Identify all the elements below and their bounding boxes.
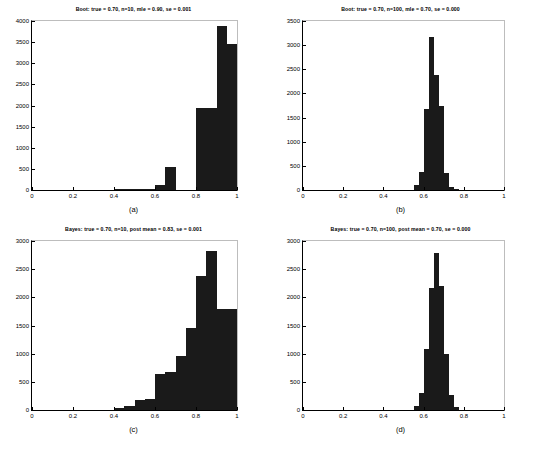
x-axis-tick-label: 0.4 (110, 193, 118, 199)
x-axis-tick-label: 0 (301, 413, 304, 419)
histogram-bar (454, 189, 459, 190)
x-axis-tick-label: 1 (502, 193, 505, 199)
y-axis-tick-mark (303, 21, 306, 22)
histogram-bar (186, 328, 196, 410)
y-axis-tick-label: 500 (290, 163, 300, 169)
y-axis-tick-label: 1000 (287, 139, 300, 145)
x-axis-tick-mark (32, 187, 33, 190)
x-axis-tick-mark (303, 407, 304, 410)
panel-a-caption: (a) (0, 205, 267, 214)
x-axis-tick-mark (504, 407, 505, 410)
histogram-bar (227, 44, 237, 190)
panel-b-bars (303, 21, 504, 190)
y-axis-tick-mark (32, 190, 35, 191)
panel-c-title: Bayes: true = 0.70, n=10, post mean = 0.… (0, 226, 267, 232)
x-axis-tick-mark (196, 187, 197, 190)
histogram-bar (114, 408, 124, 410)
y-axis-tick-label: 1500 (287, 115, 300, 121)
y-axis-tick-label: 2500 (287, 266, 300, 272)
x-axis-tick-label: 0.6 (419, 193, 427, 199)
y-axis-tick-mark (32, 382, 35, 383)
panel-a-plot-area: 0500100015002000250030003500400000.20.40… (31, 20, 238, 191)
y-axis-tick-label: 2000 (16, 103, 29, 109)
y-axis-tick-label: 3000 (287, 238, 300, 244)
histogram-bar (124, 189, 134, 190)
panel-d-bars (303, 241, 504, 410)
y-axis-tick-mark (32, 297, 35, 298)
y-axis-tick-label: 0 (26, 407, 29, 413)
y-axis-tick-label: 3000 (287, 42, 300, 48)
x-axis-tick-label: 0.2 (69, 193, 77, 199)
histogram-bar (454, 407, 459, 410)
y-axis-tick-label: 1000 (287, 351, 300, 357)
x-axis-tick-mark (424, 187, 425, 190)
x-axis-tick-mark (73, 407, 74, 410)
x-axis-tick-label: 1 (235, 413, 238, 419)
x-axis-tick-label: 0.6 (419, 413, 427, 419)
x-axis-tick-mark (343, 407, 344, 410)
histogram-bar (165, 372, 175, 410)
y-axis-tick-mark (303, 142, 306, 143)
histogram-bar (114, 189, 124, 190)
y-axis-tick-mark (32, 63, 35, 64)
panel-c: Bayes: true = 0.70, n=10, post mean = 0.… (0, 226, 267, 441)
y-axis-tick-mark (303, 410, 306, 411)
y-axis-tick-label: 2500 (16, 266, 29, 272)
y-axis-tick-mark (32, 106, 35, 107)
y-axis-tick-mark (303, 354, 306, 355)
panel-b-title: Boot: true = 0.70, n=100, mle = 0.70, se… (267, 6, 534, 12)
y-axis-tick-label: 1500 (287, 323, 300, 329)
y-axis-tick-mark (303, 45, 306, 46)
y-axis-tick-label: 2000 (287, 90, 300, 96)
x-axis-tick-label: 0.8 (192, 193, 200, 199)
y-axis-tick-mark (32, 326, 35, 327)
histogram-bar (176, 356, 186, 410)
histogram-bar (145, 189, 155, 190)
y-axis-tick-label: 2000 (16, 294, 29, 300)
histogram-bar (206, 251, 216, 410)
panel-b: Boot: true = 0.70, n=100, mle = 0.70, se… (267, 6, 534, 221)
histogram-bar (145, 399, 155, 410)
histogram-bar (124, 406, 134, 411)
panel-a-bars (32, 21, 237, 190)
x-axis-tick-label: 0 (30, 413, 33, 419)
y-axis-tick-mark (32, 148, 35, 149)
panel-a: Boot: true = 0.70, n=10, mle = 0.90, se … (0, 6, 267, 221)
y-axis-tick-label: 3500 (16, 39, 29, 45)
x-axis-tick-mark (114, 407, 115, 410)
panel-c-caption: (c) (0, 425, 267, 434)
y-axis-tick-mark (32, 169, 35, 170)
y-axis-tick-mark (32, 127, 35, 128)
histogram-bar (135, 189, 145, 190)
y-axis-tick-mark (303, 69, 306, 70)
x-axis-tick-label: 0.8 (192, 413, 200, 419)
histogram-bar (196, 108, 217, 190)
panel-c-bars (32, 241, 237, 410)
y-axis-tick-mark (303, 326, 306, 327)
panel-d-plot-area: 05001000150020002500300000.20.40.60.81 (302, 240, 505, 411)
y-axis-tick-label: 1500 (16, 323, 29, 329)
histogram-bar (165, 167, 175, 190)
y-axis-tick-mark (303, 297, 306, 298)
figure-canvas: Boot: true = 0.70, n=10, mle = 0.90, se … (0, 0, 534, 451)
y-axis-tick-mark (32, 21, 35, 22)
x-axis-tick-label: 0.4 (379, 193, 387, 199)
x-axis-tick-mark (504, 187, 505, 190)
y-axis-tick-mark (32, 354, 35, 355)
x-axis-tick-mark (73, 187, 74, 190)
y-axis-tick-label: 1000 (16, 145, 29, 151)
x-axis-tick-mark (464, 407, 465, 410)
panel-b-caption: (b) (267, 205, 534, 214)
y-axis-tick-label: 1000 (16, 351, 29, 357)
x-axis-tick-label: 0 (301, 193, 304, 199)
x-axis-tick-mark (343, 187, 344, 190)
x-axis-tick-mark (237, 187, 238, 190)
y-axis-tick-label: 500 (19, 166, 29, 172)
y-axis-tick-mark (303, 241, 306, 242)
y-axis-tick-label: 1500 (16, 124, 29, 130)
x-axis-tick-label: 0.2 (69, 413, 77, 419)
x-axis-tick-mark (424, 407, 425, 410)
panel-d-caption: (d) (267, 425, 534, 434)
x-axis-tick-label: 0.6 (151, 413, 159, 419)
y-axis-tick-label: 4000 (16, 18, 29, 24)
